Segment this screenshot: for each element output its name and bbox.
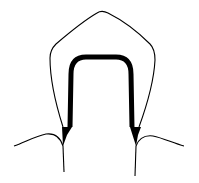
gingiva-right [136,136,184,146]
chamfer-right [130,127,141,146]
root-left [63,146,64,172]
tooth-diagram [0,0,199,183]
crown-outline [50,12,155,128]
diagram-canvas [0,0,199,183]
root-right [135,146,136,176]
preparation [70,57,132,127]
chamfer-left [62,127,72,146]
gingiva-left [14,134,63,146]
